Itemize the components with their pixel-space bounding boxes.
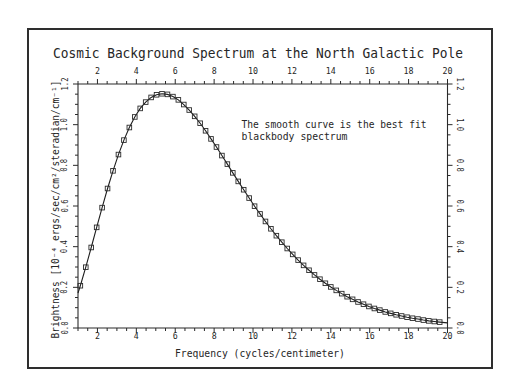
- x-tick-label-bottom: 10: [248, 331, 258, 341]
- y-tick-label-left: 0.0: [60, 322, 70, 335]
- x-tick-label-bottom: 18: [404, 331, 414, 341]
- plot-area: 224466881010121214141616181820200.00.00.…: [60, 66, 465, 340]
- x-tick-label-bottom: 12: [287, 331, 297, 341]
- y-axis-label: Brightness [10⁻⁴ ergs/sec/cm²/steradian/…: [50, 81, 61, 339]
- y-tick-label-left: 0.8: [60, 159, 70, 172]
- chart-title: Cosmic Background Spectrum at the North …: [53, 45, 463, 61]
- x-tick-label-top: 18: [404, 66, 414, 76]
- x-axis-label: Frequency (cycles/centimeter): [175, 348, 345, 359]
- x-tick-label-top: 16: [365, 66, 375, 76]
- tick-marks: [73, 79, 453, 333]
- tick-labels: 224466881010121214141616181820200.00.00.…: [60, 66, 465, 340]
- x-tick-label-top: 2: [95, 66, 100, 76]
- x-tick-label-bottom: 8: [212, 331, 217, 341]
- y-tick-label-left: 1.2: [60, 78, 70, 91]
- chart-figure: Cosmic Background Spectrum at the North …: [0, 0, 515, 392]
- x-tick-label-bottom: 20: [443, 331, 453, 341]
- x-tick-label-top: 10: [248, 66, 258, 76]
- y-tick-label-right: 0.4: [455, 240, 465, 253]
- x-tick-label-top: 6: [173, 66, 178, 76]
- x-tick-label-bottom: 2: [95, 331, 100, 341]
- y-tick-label-right: 0.2: [455, 281, 465, 294]
- annotation: The smooth curve is the best fit blackbo…: [242, 119, 427, 142]
- y-tick-label-left: 1.0: [60, 118, 70, 131]
- x-tick-label-bottom: 6: [173, 331, 178, 341]
- x-tick-label-bottom: 16: [365, 331, 375, 341]
- x-tick-label-top: 8: [212, 66, 217, 76]
- y-tick-label-right: 1.0: [455, 118, 465, 131]
- annotation-line-1: The smooth curve is the best fit: [242, 119, 427, 130]
- y-tick-label-right: 0.8: [455, 159, 465, 172]
- x-tick-label-bottom: 4: [134, 331, 139, 341]
- annotation-line-2: blackbody spectrum: [242, 131, 348, 142]
- x-tick-label-top: 14: [326, 66, 336, 76]
- x-tick-label-bottom: 14: [326, 331, 336, 341]
- x-tick-label-top: 4: [134, 66, 139, 76]
- y-tick-label-left: 0.4: [60, 240, 70, 253]
- y-tick-label-right: 1.2: [455, 78, 465, 91]
- y-tick-label-left: 0.6: [60, 200, 70, 213]
- x-tick-label-top: 20: [443, 66, 453, 76]
- y-tick-label-right: 0.6: [455, 200, 465, 213]
- y-tick-label-left: 0.2: [60, 281, 70, 294]
- x-tick-label-top: 12: [287, 66, 297, 76]
- y-tick-label-right: 0.0: [455, 322, 465, 335]
- chart-canvas: Cosmic Background Spectrum at the North …: [0, 0, 515, 392]
